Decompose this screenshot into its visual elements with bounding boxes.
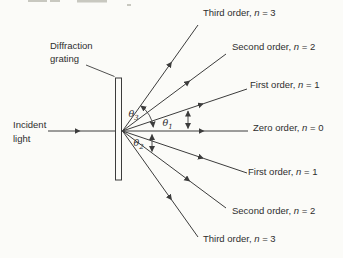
cropped-text-artifact xyxy=(28,0,131,6)
ray-first-order-up xyxy=(123,89,248,131)
theta1-label: θ1 xyxy=(163,117,173,131)
label-third-order-up: Third order, n = 3 xyxy=(203,7,276,18)
diffraction-grating-figure: Diffraction grating Incident light Third… xyxy=(0,0,343,258)
label-second-order-up: Second order, n = 2 xyxy=(232,41,315,52)
label-third-order-down: Third order, n = 3 xyxy=(203,233,276,244)
label-second-order-down: Second order, n = 2 xyxy=(232,205,315,216)
label-first-order-up: First order, n = 1 xyxy=(250,79,319,90)
grating-label-leader-line xyxy=(86,65,115,77)
diffraction-grating xyxy=(116,78,122,180)
incident-label-line1: Incident xyxy=(13,119,47,130)
figure-canvas: Diffraction grating Incident light Third… xyxy=(0,0,343,258)
incident-label-line2: light xyxy=(13,133,31,144)
grating-label-line1: Diffraction xyxy=(50,40,93,51)
label-zero-order: Zero order, n = 0 xyxy=(253,122,324,133)
grating-label-line2: grating xyxy=(50,53,79,64)
ray-first-order-down xyxy=(123,131,248,173)
label-first-order-down: First order, n = 1 xyxy=(248,166,317,177)
